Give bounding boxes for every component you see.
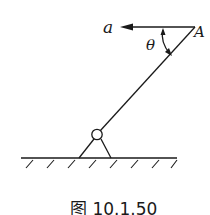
support-leg-right — [101, 139, 111, 158]
mechanics-diagram: a A θ 图 10.1.50 — [0, 0, 210, 215]
pin-joint-icon — [92, 129, 102, 139]
figure-caption: 图 10.1.50 — [70, 199, 157, 215]
angle-label: θ — [146, 36, 155, 54]
ground-hatching — [26, 160, 177, 168]
acceleration-label: a — [103, 17, 113, 37]
point-a-label: A — [192, 23, 205, 41]
angle-arrowhead-top-icon — [161, 28, 166, 35]
acceleration-arrowhead-icon — [120, 24, 133, 31]
support-leg-left — [79, 139, 94, 158]
